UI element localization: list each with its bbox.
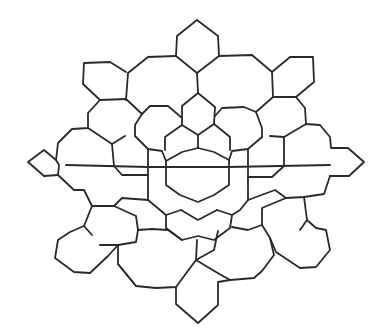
tile-edge [165,125,182,150]
tile-edge [66,165,330,167]
tile-edge [270,136,284,137]
tile-edge [168,230,182,240]
tile-edge [112,136,125,144]
tile-edge [197,73,198,93]
tile-edge [148,200,181,215]
tile-edge [229,137,262,160]
tile-edge [126,56,176,100]
tile-edge [219,55,273,97]
tile-edge [83,62,126,100]
tile-edge [217,200,248,215]
tile-edge [88,128,112,144]
tile-edge [74,190,148,206]
tile-edge [135,136,166,161]
tile-edge [214,124,230,150]
tile-edge [126,99,142,114]
tile-edge [181,210,217,220]
tile-edge [112,144,148,175]
tile-edge [248,176,330,200]
tiling-diagram [0,0,387,336]
tile-edge [215,107,256,116]
tile-edge [284,124,306,137]
tile-edge [232,198,286,230]
tile-edge [135,114,142,136]
tile-edge [248,137,284,177]
tile-edge [272,57,314,97]
tile-edge [56,100,100,190]
tile-edge [300,197,307,230]
tile-edge [256,97,273,112]
tile-edge [166,148,229,161]
tile-edge [196,231,218,260]
tile-edge [182,93,215,135]
tile-edge [142,106,182,118]
tile-edge [84,206,92,235]
tile-edge [118,240,197,288]
tile-edge [55,226,138,273]
tile-edge [118,264,136,286]
tile-edge [28,150,58,176]
tile-edge [256,112,262,137]
tile-edge [176,280,230,323]
tile-edge [196,238,274,280]
tile-edge [176,20,219,73]
